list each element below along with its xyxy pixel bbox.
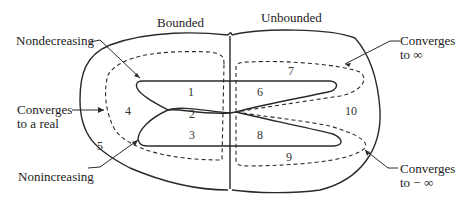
region-number-9: 9 <box>286 151 292 163</box>
nondecreasing-callout: Nondecreasing <box>16 34 94 47</box>
converges-neg-infinity-arrow <box>365 150 398 168</box>
converges-real-callout-line1: Converges <box>17 103 72 116</box>
region-number-8: 8 <box>257 129 263 141</box>
unbounded-region-outline <box>232 30 380 193</box>
converges-real-callout-line2: to a real <box>17 117 59 130</box>
arrowhead-icon <box>98 107 104 113</box>
converges-infinity-arrow <box>345 41 400 64</box>
bounded-label: Bounded <box>157 16 204 29</box>
region-number-4: 4 <box>125 105 131 117</box>
region-number-5: 5 <box>97 140 103 152</box>
region-number-10: 10 <box>345 105 357 117</box>
converges-neg-infinity-callout-line2: to − ∞ <box>400 176 433 189</box>
nonincreasing-loop <box>138 110 341 146</box>
bounded-region-outline <box>80 33 228 190</box>
arrowhead-icon <box>132 140 138 146</box>
converges-infinity-callout-line2: to ∞ <box>400 48 423 61</box>
converges-infinity-callout-line1: Converges <box>400 34 455 47</box>
region-number-3: 3 <box>189 129 195 141</box>
nonincreasing-callout: Nonincreasing <box>18 170 94 183</box>
region-number-1: 1 <box>188 86 194 98</box>
converges-neg-infinity-region <box>236 112 366 166</box>
bounded-unbounded-divider <box>228 33 232 189</box>
unbounded-label: Unbounded <box>261 11 322 24</box>
region-number-2: 2 <box>189 108 195 120</box>
nondecreasing-arrow <box>90 40 140 78</box>
converges-neg-infinity-callout-line1: Converges <box>400 162 455 175</box>
region-number-7: 7 <box>288 65 294 77</box>
region-number-6: 6 <box>257 86 263 98</box>
converges-real-region <box>106 52 224 160</box>
